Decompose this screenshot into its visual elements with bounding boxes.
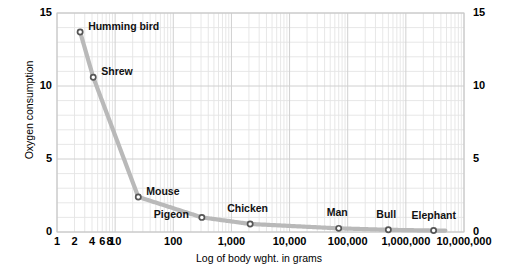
- y-axis-tick-label-right: 10: [473, 79, 515, 91]
- data-point-marker: [199, 215, 204, 220]
- data-point-marker: [78, 29, 83, 34]
- data-point-label: Shrew: [101, 65, 133, 77]
- data-point-marker: [431, 228, 436, 233]
- y-axis-tick-label-right: 15: [473, 6, 515, 18]
- chart-plot-area: [0, 0, 518, 274]
- data-point-label: Man: [327, 206, 348, 218]
- data-point-marker: [248, 221, 253, 226]
- data-point-label: Pigeon: [154, 208, 189, 220]
- data-point-marker: [136, 194, 141, 199]
- x-axis-tick-label: 10,000,000: [419, 235, 509, 247]
- data-point-marker: [91, 75, 96, 80]
- data-point-marker: [386, 227, 391, 232]
- chart-figure: 151050 151050 12468101001,00010,000100,0…: [0, 0, 518, 274]
- x-axis-title: Log of body wght. in grams: [0, 252, 518, 264]
- y-axis-tick-label-right: 5: [473, 152, 515, 164]
- data-point-label: Chicken: [227, 202, 268, 214]
- data-point-label: Humming bird: [88, 20, 159, 32]
- data-point-label: Mouse: [146, 185, 179, 197]
- y-axis-tick-label-left: 15: [10, 6, 52, 18]
- y-axis-title: Oxygen consumption: [23, 35, 35, 185]
- data-point-label: Elephant: [412, 209, 456, 221]
- data-point-label: Bull: [376, 208, 396, 220]
- data-point-marker: [336, 226, 341, 231]
